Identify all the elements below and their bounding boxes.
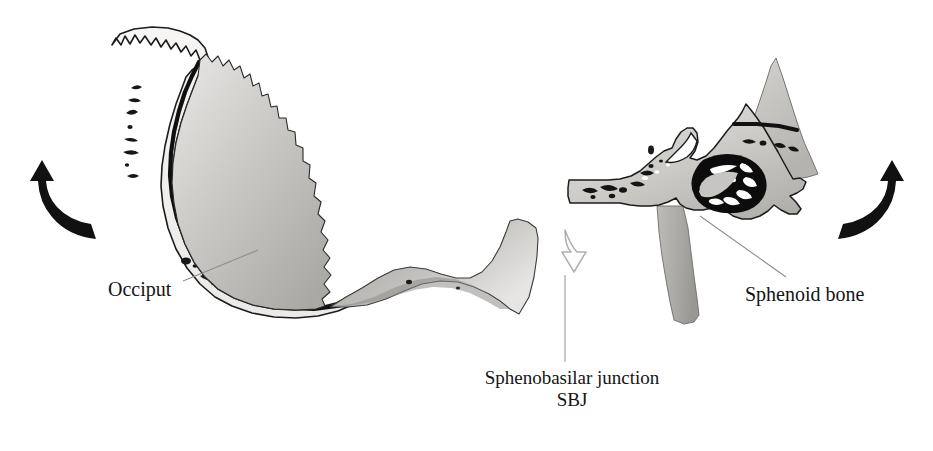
occiput-structure xyxy=(112,27,538,318)
sbj-label-line1: Sphenobasilar junction xyxy=(485,367,660,388)
sphenoid-foramen xyxy=(648,146,654,155)
sbj-label-line2: SBJ xyxy=(452,389,692,411)
left-rotation-arrow xyxy=(30,160,96,239)
occiput-basilar-part xyxy=(330,219,538,314)
occiput-basilar-mark-2 xyxy=(456,286,460,289)
sphenoid-leader-line xyxy=(700,216,786,277)
sphenoid-bone-label: Sphenoid bone xyxy=(745,283,864,307)
anatomy-figure: Occiput Sphenoid bone Sphenobasilar junc… xyxy=(0,0,933,451)
occiput-label: Occiput xyxy=(108,278,171,302)
sbj-pointer-arrow xyxy=(562,230,586,362)
sbj-label: Sphenobasilar junction SBJ xyxy=(452,367,692,412)
right-rotation-arrow xyxy=(838,160,904,239)
sphenoid-pterygoid-process xyxy=(657,206,699,324)
occiput-basilar-mark xyxy=(406,280,412,284)
